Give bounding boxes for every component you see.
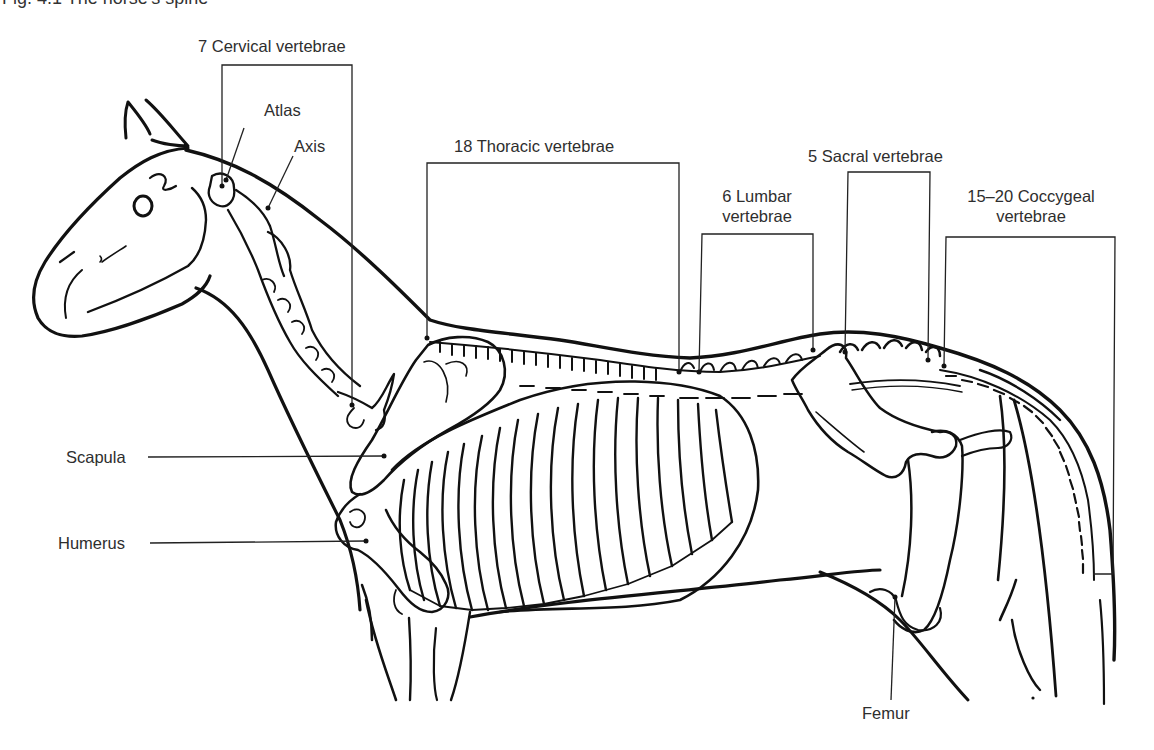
label-thoracic-vertebrae: 18 Thoracic vertebrae (454, 136, 614, 156)
label-coccygeal-vertebrae: 15–20 Coccygeal vertebrae (952, 186, 1110, 226)
cervical-spine (209, 174, 394, 430)
label-cervical-vertebrae: 7 Cervical vertebrae (198, 36, 346, 56)
label-axis: Axis (294, 136, 325, 156)
label-coccygeal-line1: 15–20 Coccygeal (952, 186, 1110, 206)
label-lumbar-line1: 6 Lumbar (712, 186, 802, 206)
horse-skeleton-illustration (0, 0, 1154, 750)
label-femur: Femur (862, 703, 910, 723)
pelvis (792, 340, 962, 477)
label-humerus: Humerus (58, 533, 125, 553)
label-atlas: Atlas (264, 100, 301, 120)
leader-endpoint-dots (220, 178, 1035, 700)
femur (870, 430, 1011, 632)
label-sacral-vertebrae: 5 Sacral vertebrae (808, 146, 943, 166)
label-scapula: Scapula (66, 447, 126, 467)
label-lumbar-line2: vertebrae (712, 206, 802, 226)
label-coccygeal-line2: vertebrae (952, 206, 1110, 226)
label-lumbar-vertebrae: 6 Lumbar vertebrae (712, 186, 802, 226)
rib-cage (392, 381, 758, 612)
